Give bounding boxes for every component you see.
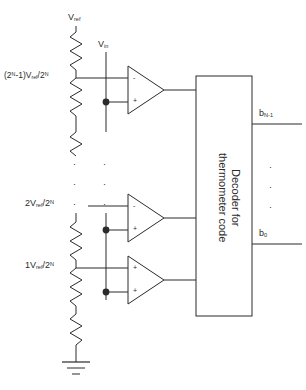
vin-ellipsis-dot-3: · [103, 200, 106, 209]
output-label-b-0: b0 [259, 229, 267, 239]
vin-ellipsis-dot-1: · [103, 160, 106, 169]
comparator-3-plus-input-sign: + [133, 287, 137, 294]
output-ellipsis-dot-2: · [269, 183, 272, 192]
ladder-tap-label-2: 2Vref/2N [25, 199, 54, 209]
junction-dot-1 [103, 99, 110, 106]
output-ellipsis-dot-3: · [269, 203, 272, 212]
resistor-bottom [70, 314, 82, 345]
schematic-svg [0, 0, 306, 390]
comparator-3-minus-input-sign: + [133, 264, 137, 271]
resistor-3 [70, 132, 82, 156]
ladder-ellipsis-dot-3: · [73, 200, 76, 209]
vin-ellipsis-dot-2: · [103, 180, 106, 189]
ladder-tap-label-top: (2N-1)Vref/2N [4, 71, 49, 80]
comparator-1-plus-input-sign: + [133, 97, 137, 104]
comparator-1-minus-input-sign: - [133, 74, 135, 81]
junction-dot-3 [103, 289, 110, 296]
circuit-diagram-canvas: Vref Vin (2N-1)Vref/2N 2Vref/2N 1Vref/2N… [0, 0, 306, 390]
output-ellipsis-dot-1: · [269, 163, 272, 172]
resistor-top [70, 32, 82, 70]
comparator-2-minus-input-sign: - [133, 202, 135, 209]
vin-label: Vin [98, 40, 108, 50]
ladder-tap-label-3: 1Vref/2N [25, 261, 54, 271]
ladder-ellipsis-dot-2: · [73, 180, 76, 189]
junction-dot-2 [103, 227, 110, 234]
decoder-block-label: Decoder for thermometer code [210, 128, 242, 268]
ladder-ellipsis-dot-1: · [73, 160, 76, 169]
output-label-b-n-1: bN-1 [259, 109, 273, 119]
vref-label: Vref [68, 13, 81, 23]
resistor-2 [70, 78, 82, 116]
resistor-5 [70, 268, 82, 306]
comparator-2-plus-input-sign: + [133, 225, 137, 232]
resistor-4 [70, 222, 82, 260]
